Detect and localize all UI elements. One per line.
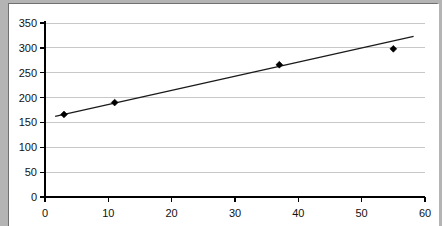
y-tick-label: 150 bbox=[19, 116, 37, 128]
x-tick-label: 20 bbox=[165, 207, 177, 219]
plot-background bbox=[9, 4, 439, 226]
x-tick-label: 60 bbox=[419, 207, 431, 219]
chart-frame: 350 300 250 200 150 100 50 0 0 10 20 30 … bbox=[8, 3, 438, 226]
y-tick-label: 100 bbox=[19, 141, 37, 153]
y-tick-label: 350 bbox=[19, 17, 37, 29]
y-tick-label: 300 bbox=[19, 42, 37, 54]
x-tick-label: 0 bbox=[42, 207, 48, 219]
y-tick-label: 200 bbox=[19, 92, 37, 104]
x-tick-label: 50 bbox=[355, 207, 367, 219]
chart-screenshot: 350 300 250 200 150 100 50 0 0 10 20 30 … bbox=[0, 0, 442, 226]
x-tick-label: 40 bbox=[292, 207, 304, 219]
y-tick-label: 250 bbox=[19, 67, 37, 79]
y-tick-label: 50 bbox=[25, 166, 37, 178]
y-tick-label: 0 bbox=[31, 191, 37, 203]
x-tick-label: 10 bbox=[102, 207, 114, 219]
scatter-chart-plot: 350 300 250 200 150 100 50 0 0 10 20 30 … bbox=[9, 4, 439, 226]
x-tick-label: 30 bbox=[229, 207, 241, 219]
